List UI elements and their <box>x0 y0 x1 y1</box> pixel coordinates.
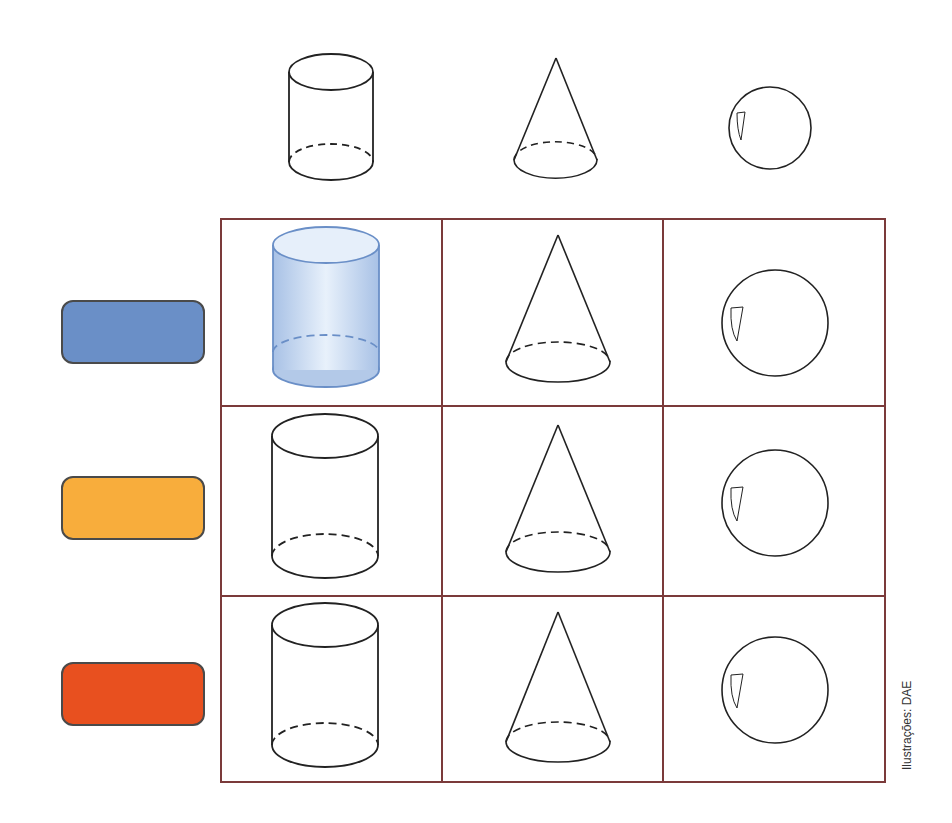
header-cylinder-icon <box>289 54 373 180</box>
shapes-layer <box>0 0 952 823</box>
cell-cylinder <box>272 414 378 578</box>
cell-sphere <box>722 450 828 556</box>
cell-cylinder-blue <box>273 227 379 387</box>
header-cone-icon <box>514 58 597 178</box>
cell-cone <box>506 612 610 762</box>
cell-cylinder <box>272 603 378 767</box>
cell-sphere <box>722 637 828 743</box>
cell-sphere <box>722 270 828 376</box>
cell-cone <box>506 235 610 382</box>
header-sphere-icon <box>729 87 811 169</box>
illustration-credit: Ilustrações: DAE <box>900 681 914 770</box>
cell-cone <box>506 425 610 572</box>
